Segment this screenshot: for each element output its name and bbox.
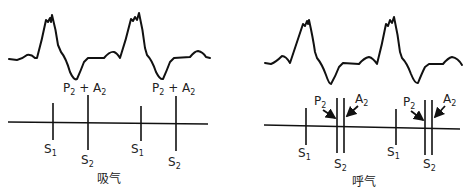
a2-arrow: [347, 106, 358, 116]
s2-label: S2: [334, 157, 347, 173]
a2-arrow: [435, 106, 445, 117]
p2-label: P2: [403, 95, 415, 111]
s1-label: S1: [131, 142, 144, 158]
heart-sound-diagram: P2 + A2 P2 + A2 S1 S2 S1 S2 吸气 P2 A2 P2 …: [0, 0, 468, 189]
inspiration-caption: 吸气: [97, 171, 121, 186]
a2-label: A2: [443, 92, 456, 108]
p2-arrow: [411, 111, 423, 120]
expiration-timeline: [264, 125, 460, 129]
s1-label: S1: [44, 142, 57, 158]
inspiration-timeline: [8, 122, 208, 124]
p2-a2-label: P2 + A2: [63, 81, 106, 97]
inspiration-panel: P2 + A2 P2 + A2 S1 S2 S1 S2 吸气: [8, 13, 210, 186]
expiration-caption: 呼气: [352, 174, 376, 189]
expiration-panel: P2 A2 P2 A2 S1 S2 S1 S2 呼气: [264, 17, 462, 189]
p2-arrow: [323, 110, 335, 118]
s1-label: S1: [387, 145, 400, 161]
inspiration-waveform: [9, 13, 210, 79]
s2-label: S2: [81, 153, 94, 169]
s2-label: S2: [168, 155, 181, 171]
s1-label: S1: [298, 146, 311, 162]
s2-label: S2: [423, 157, 436, 173]
p2-a2-label: P2 + A2: [152, 81, 195, 97]
expiration-waveform: [265, 17, 462, 84]
p2-label: P2: [314, 94, 326, 110]
a2-label: A2: [355, 92, 368, 108]
